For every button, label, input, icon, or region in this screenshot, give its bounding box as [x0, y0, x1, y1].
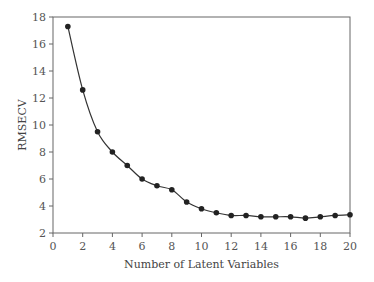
- y-axis-title: RMSECV: [16, 98, 29, 151]
- y-tick-label: 10: [32, 119, 46, 132]
- x-tick-label: 4: [109, 240, 116, 253]
- data-point-marker: [318, 214, 324, 220]
- data-point-marker: [258, 214, 264, 220]
- data-point-marker: [303, 215, 309, 221]
- x-tick-label: 0: [50, 240, 57, 253]
- data-point-marker: [214, 210, 220, 216]
- x-axis-ticks: 02468101214161820: [50, 233, 358, 253]
- x-tick-label: 14: [254, 240, 268, 253]
- plot-border: [53, 17, 350, 233]
- data-point-marker: [273, 214, 279, 220]
- data-point-marker: [80, 87, 86, 93]
- x-tick-label: 2: [79, 240, 86, 253]
- data-point-marker: [228, 213, 234, 219]
- x-tick-label: 18: [313, 240, 327, 253]
- data-point-marker: [154, 183, 160, 189]
- data-point-marker: [169, 187, 175, 193]
- y-tick-label: 6: [39, 173, 46, 186]
- y-tick-label: 16: [32, 38, 46, 51]
- data-point-marker: [65, 24, 71, 30]
- x-tick-label: 10: [195, 240, 209, 253]
- data-point-marker: [288, 214, 294, 220]
- x-tick-label: 8: [168, 240, 175, 253]
- y-tick-label: 2: [39, 227, 46, 240]
- data-point-marker: [110, 149, 116, 155]
- data-point-marker: [332, 213, 338, 219]
- y-tick-label: 14: [32, 65, 46, 78]
- series-line: [68, 26, 350, 218]
- x-tick-label: 16: [284, 240, 298, 253]
- data-point-marker: [199, 206, 205, 212]
- data-series: [65, 24, 353, 221]
- rmsecv-line-chart: 24681012141618 02468101214161820 Number …: [0, 0, 374, 282]
- x-tick-label: 6: [139, 240, 146, 253]
- data-point-marker: [243, 213, 249, 219]
- y-axis-ticks: 24681012141618: [32, 11, 53, 240]
- data-point-marker: [95, 129, 101, 135]
- y-tick-label: 4: [39, 200, 46, 213]
- data-point-marker: [347, 212, 353, 218]
- data-point-marker: [139, 176, 145, 182]
- y-tick-label: 8: [39, 146, 46, 159]
- plot-frame: [53, 17, 350, 233]
- x-tick-label: 12: [224, 240, 238, 253]
- y-tick-label: 12: [32, 92, 46, 105]
- y-tick-label: 18: [32, 11, 46, 24]
- data-point-marker: [124, 163, 130, 169]
- data-point-marker: [184, 199, 190, 205]
- x-axis-title: Number of Latent Variables: [124, 258, 279, 271]
- x-tick-label: 20: [343, 240, 357, 253]
